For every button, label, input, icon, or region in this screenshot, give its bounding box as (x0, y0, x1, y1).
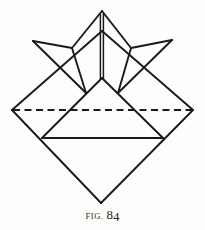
figure-container: FIG.84 (0, 0, 205, 230)
diamond-edge-top-right-line (102, 31, 193, 110)
center-triangle-left-edge (42, 78, 102, 138)
diagram-ink-group (12, 11, 193, 203)
figure-caption-prefix: FIG. (85, 211, 103, 221)
figure-caption-number-minor: 4 (113, 209, 120, 224)
diamond-edge-top-left-line (12, 31, 102, 110)
star-left-upper-edge (72, 11, 102, 48)
origami-diagram (0, 0, 205, 230)
diamond-edge-bottom-right-line (101, 110, 193, 203)
center-crease-vertical (100, 14, 103, 79)
figure-caption: FIG.84 (0, 206, 205, 222)
center-triangle-right-edge (102, 78, 163, 138)
